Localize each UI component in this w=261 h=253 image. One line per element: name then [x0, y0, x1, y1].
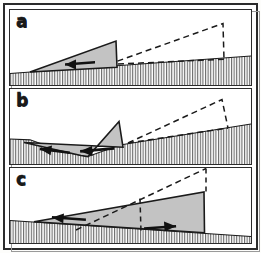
- panel-b-drawing: [10, 89, 251, 164]
- dashed-reference-wedge-a: [108, 24, 224, 65]
- panel-c: c: [9, 167, 252, 244]
- panel-label-c: c: [16, 171, 26, 188]
- panel-label-b: b: [16, 92, 28, 109]
- panel-label-a: a: [16, 13, 27, 30]
- figure-root: a: [0, 0, 261, 253]
- panel-a: a: [9, 9, 252, 86]
- panel-a-drawing: [10, 10, 251, 85]
- panel-b: b: [9, 88, 252, 165]
- panel-c-drawing: [10, 168, 251, 243]
